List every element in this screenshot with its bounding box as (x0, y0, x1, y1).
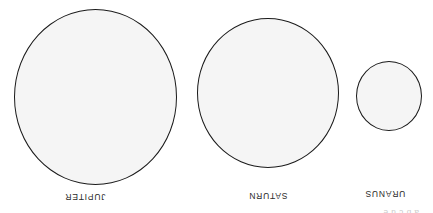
planet-label-saturn: SATURN (237, 191, 299, 201)
planet-size-comparison-figure: a b c d e URANUS SATURN JUPITER (0, 0, 433, 213)
clipped-top-text: a b c d e (383, 208, 419, 213)
planet-circle-jupiter (14, 9, 177, 185)
figure-inverted-plate: a b c d e URANUS SATURN JUPITER (0, 0, 433, 213)
planet-circle-saturn (197, 18, 339, 168)
planet-circle-uranus (356, 61, 422, 131)
planet-label-jupiter: JUPITER (50, 192, 120, 202)
planet-label-uranus: URANUS (352, 189, 418, 199)
